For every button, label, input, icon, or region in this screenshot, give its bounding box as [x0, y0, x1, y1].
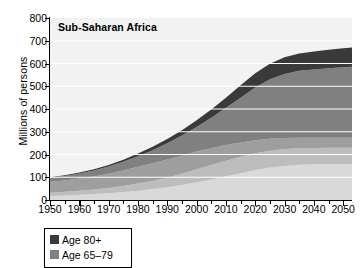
x-tick-mark-1985	[153, 200, 154, 204]
plot-title: Sub-Saharan Africa	[58, 21, 157, 33]
x-tick-mark-1950	[50, 200, 51, 206]
y-tick-mark-400	[45, 109, 49, 110]
x-tick-mark-2050	[343, 200, 344, 206]
legend-swatch-age-80-plus	[50, 235, 59, 244]
legend-label-age-80-plus: Age 80+	[62, 235, 101, 245]
x-tick-mark-1975	[123, 200, 124, 204]
x-tick-mark-1965	[94, 200, 95, 204]
x-tick-mark-2020	[255, 200, 256, 206]
legend-item-age-65-79: Age 65–79	[50, 247, 131, 262]
x-tick-mark-1990	[167, 200, 168, 206]
y-tick-mark-600	[45, 64, 49, 65]
x-axis-tick-labels: 1950196019701980199020002010202020302040…	[0, 203, 360, 219]
x-tick-mark-1980	[138, 200, 139, 206]
x-tick-mark-2010	[226, 200, 227, 206]
y-tick-mark-800	[45, 18, 49, 19]
x-tick-mark-1955	[65, 200, 66, 204]
x-tick-mark-2035	[299, 200, 300, 204]
x-tick-mark-2040	[314, 200, 315, 206]
x-tick-mark-2005	[211, 200, 212, 204]
x-tick-mark-1960	[79, 200, 80, 206]
chart-legend: Age 80+ Age 65–79	[44, 228, 132, 268]
y-axis-tick-labels: 8007006005004003002001000	[19, 0, 47, 261]
x-tick-mark-2045	[329, 200, 330, 204]
x-tick-mark-1970	[109, 200, 110, 206]
y-tick-mark-200	[45, 155, 49, 156]
x-tick-mark-1995	[182, 200, 183, 204]
plot-area	[50, 18, 352, 200]
x-tick-mark-2000	[197, 200, 198, 206]
legend-item-age-80-plus: Age 80+	[50, 232, 131, 247]
x-tick-mark-2015	[241, 200, 242, 204]
y-tick-mark-700	[45, 41, 49, 42]
x-tick-mark-2025	[270, 200, 271, 204]
y-tick-mark-100	[45, 177, 49, 178]
y-tick-mark-300	[45, 132, 49, 133]
y-tick-mark-0	[45, 200, 49, 201]
legend-swatch-age-65-79	[50, 250, 59, 259]
x-tick-mark-2030	[285, 200, 286, 206]
y-tick-mark-500	[45, 86, 49, 87]
stacked-area-series	[50, 18, 352, 200]
legend-label-age-65-79: Age 65–79	[62, 250, 113, 260]
